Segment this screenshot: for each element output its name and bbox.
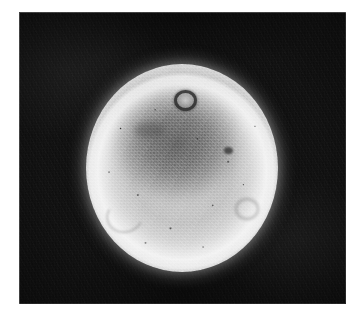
photographic-plate	[19, 12, 346, 304]
photograph-figure: Grainy black-and-white photograph of a b…	[0, 0, 359, 322]
disc-body	[86, 64, 278, 272]
bright-disc	[86, 64, 278, 272]
feature-dark-ring	[174, 90, 197, 111]
feature-dark-spot	[224, 147, 233, 154]
feature-faint-ring	[235, 198, 259, 220]
feature-smudge	[134, 122, 164, 138]
